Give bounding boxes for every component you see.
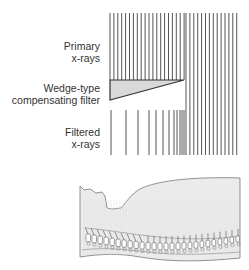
vertebra-body [140,242,144,249]
vertebra-body [128,241,132,248]
filtered-xray-beams [111,110,184,155]
vertebra-body [146,242,150,249]
wedge-filter-icon [110,80,184,100]
vertebra-body [98,236,102,244]
vertebra-body [110,238,114,245]
vertebra-body [230,237,234,243]
vertebra-body [122,240,126,247]
vertebra-body [134,241,138,248]
vertebra-body [158,243,162,250]
vertebra-body [200,241,204,247]
primary-xray-beams-left [110,13,184,80]
vertebra-body [188,242,192,249]
vertebra-body [182,243,186,250]
vertebra-body [176,243,180,250]
patient-body-illustration [80,178,240,261]
primary-xray-beams-right [186,13,237,155]
vertebra-body [218,239,222,245]
vertebra-body [194,242,198,249]
vertebra-body [236,236,240,242]
vertebra-body [164,243,168,250]
vertebra-body [104,237,108,245]
vertebra-body [92,235,96,243]
vertebra-body [170,243,174,250]
xray-diagram [0,0,249,270]
vertebra-body [224,238,228,244]
vertebra-body [116,239,120,246]
vertebra-body [212,240,216,246]
vertebra-body [86,234,91,242]
vertebra-body [152,243,156,250]
vertebra-body [206,240,210,246]
